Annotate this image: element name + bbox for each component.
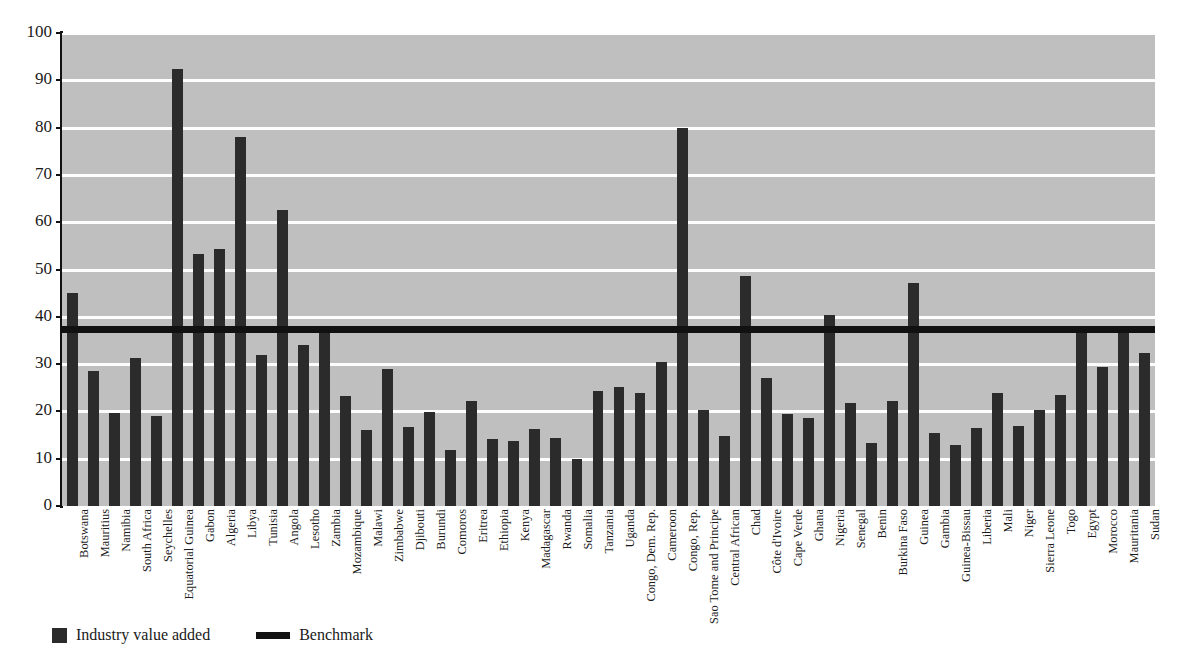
bar: [656, 362, 667, 506]
bar: [698, 410, 709, 506]
bar: [929, 433, 940, 506]
bar: [950, 445, 961, 506]
y-tick-label-10: 10: [10, 450, 52, 466]
bar: [445, 450, 456, 506]
x-tick-label: South Africa: [141, 509, 153, 572]
x-tick-label: Eritrea: [477, 509, 489, 543]
bar: [782, 414, 793, 506]
x-tick-label: Morocco: [1107, 509, 1119, 554]
y-tick-label-60: 60: [10, 213, 52, 229]
x-tick-label: Guinea: [918, 509, 930, 545]
x-tick-label: Senegal: [855, 509, 867, 548]
legend-line-swatch-icon: [256, 632, 290, 639]
x-tick-label: Ethiopia: [498, 509, 510, 551]
x-tick-label: Mauritania: [1128, 509, 1140, 563]
bar: [340, 396, 351, 506]
x-tick-label: Burundi: [435, 509, 447, 550]
bar: [130, 358, 141, 506]
bar: [361, 430, 372, 506]
x-tick-label: Malawi: [372, 509, 384, 547]
y-tick-label-20: 20: [10, 402, 52, 418]
x-axis-tick-labels: BotswanaMauritiusNamibiaSouth AfricaSeyc…: [62, 509, 1155, 619]
x-tick-label: Congo, Dem. Rep.: [645, 509, 657, 602]
x-tick-label: Uganda: [624, 509, 636, 548]
legend-label-benchmark: Benchmark: [299, 627, 373, 643]
x-tick-label: Egypt: [1086, 509, 1098, 539]
bar: [298, 345, 309, 506]
x-tick-label: Seychelles: [162, 509, 174, 562]
bar: [256, 355, 267, 506]
bar: [824, 315, 835, 506]
x-tick-label: Djibouti: [414, 509, 426, 550]
x-tick-label: Côte d'Ivoire: [771, 509, 783, 574]
bar: [719, 436, 730, 506]
bar: [908, 283, 919, 506]
x-tick-label: Madagascar: [540, 509, 552, 569]
x-tick-label: Angola: [288, 509, 300, 545]
bar: [214, 249, 225, 506]
x-tick-label: Botswana: [78, 509, 90, 558]
y-tick-label-40: 40: [10, 308, 52, 324]
bar: [845, 403, 856, 506]
bar: [803, 418, 814, 506]
bar: [88, 371, 99, 506]
legend-label-industry-value-added: Industry value added: [76, 627, 210, 643]
x-tick-label: Libya: [246, 509, 258, 538]
legend-item-benchmark: Benchmark: [256, 627, 373, 643]
bar: [761, 378, 772, 506]
bar: [866, 443, 877, 506]
bar: [887, 401, 898, 506]
x-tick-label: Zambia: [330, 509, 342, 547]
y-tick-label-70: 70: [10, 166, 52, 182]
y-tick-label-100: 100: [10, 24, 52, 40]
x-tick-label: Kenya: [519, 509, 531, 541]
x-tick-label: Nigeria: [834, 509, 846, 546]
x-tick-label: Togo: [1065, 509, 1077, 534]
y-tick-label-50: 50: [10, 261, 52, 277]
x-tick-label: Mauritius: [99, 509, 111, 557]
bar: [508, 441, 519, 506]
legend-item-industry-value-added: Industry value added: [52, 627, 210, 643]
x-tick-label: Niger: [1023, 509, 1035, 537]
x-tick-label: Zimbabwe: [393, 509, 405, 562]
bar: [593, 391, 604, 506]
bar: [109, 413, 120, 506]
x-tick-label: Benin: [876, 509, 888, 539]
bar: [277, 210, 288, 506]
x-tick-label: Lesotho: [309, 509, 321, 549]
bar: [635, 393, 646, 506]
bar: [172, 69, 183, 506]
bar: [677, 128, 688, 506]
bar: [992, 393, 1003, 506]
x-tick-label: Guinea-Bissau: [960, 509, 972, 582]
y-tick-label-80: 80: [10, 119, 52, 135]
x-tick-label: Equatorial Guinea: [183, 509, 195, 600]
y-tick-label-0: 0: [10, 497, 52, 513]
bar: [319, 328, 330, 506]
bar: [550, 438, 561, 506]
x-tick-label: Chad: [750, 509, 762, 535]
x-tick-label: Cape Verde: [792, 509, 804, 566]
x-tick-label: Cameroon: [666, 509, 678, 561]
chart-figure: 0102030405060708090100 BotswanaMauritius…: [0, 0, 1186, 660]
x-tick-label: Tunisia: [267, 509, 279, 546]
bar: [235, 137, 246, 506]
bar: [424, 412, 435, 506]
plot-area: [62, 33, 1155, 506]
bar: [1055, 395, 1066, 506]
bar: [740, 276, 751, 506]
x-tick-label: Tanzania: [603, 509, 615, 554]
x-tick-label: Somalia: [582, 509, 594, 550]
x-tick-label: Sudan: [1149, 509, 1161, 540]
bar: [572, 459, 583, 506]
bar-series-industry-value-added: [62, 33, 1155, 506]
bar: [1013, 426, 1024, 506]
x-tick-label: Mozambique: [351, 509, 363, 574]
x-tick-label: Burkina Faso: [897, 509, 909, 575]
x-tick-label: Namibia: [120, 509, 132, 552]
bar: [1097, 367, 1108, 506]
x-tick-label: Rwanda: [561, 509, 573, 550]
x-tick-label: Mali: [1002, 509, 1014, 532]
bar: [614, 387, 625, 506]
bar: [487, 439, 498, 506]
